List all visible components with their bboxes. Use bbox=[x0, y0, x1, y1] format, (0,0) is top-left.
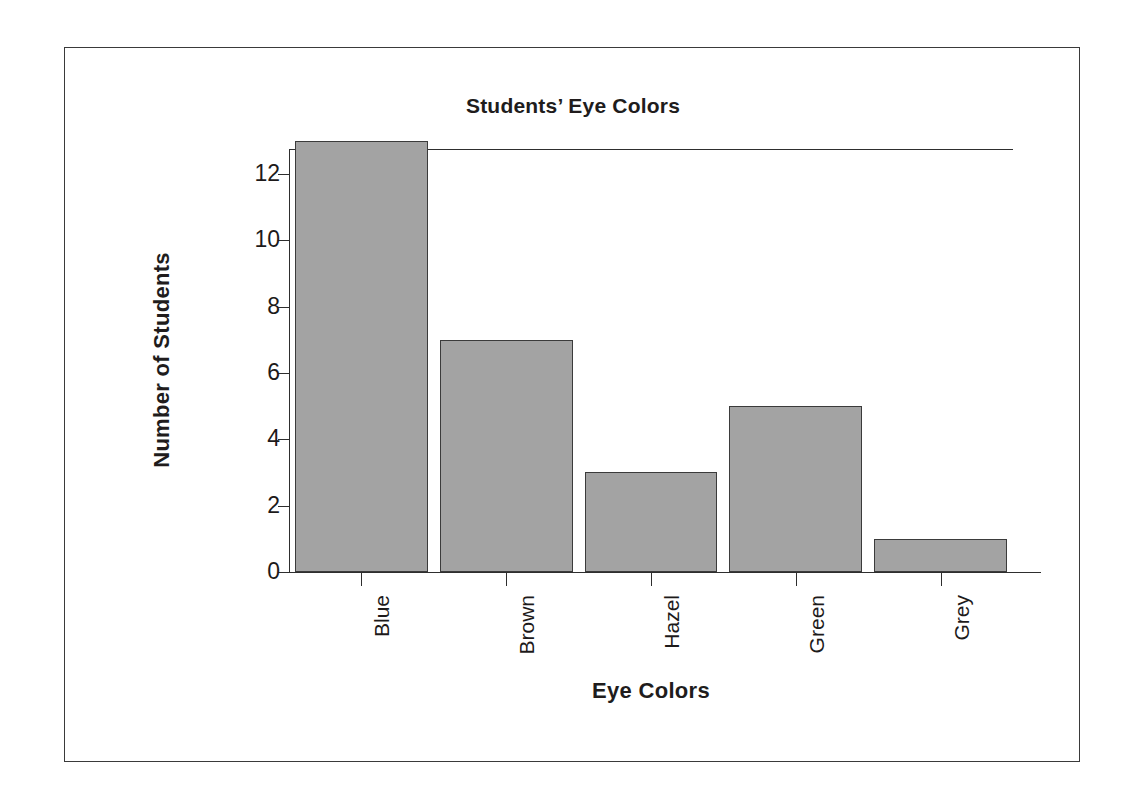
plot-area: 024681012 BlueBrownHazelGreenGrey bbox=[289, 149, 1013, 572]
x-tick-mark bbox=[361, 572, 362, 586]
y-axis-title: Number of Students bbox=[149, 252, 175, 468]
x-axis-title: Eye Colors bbox=[289, 678, 1013, 704]
x-tick-mark bbox=[796, 572, 797, 586]
x-tick-mark bbox=[651, 572, 652, 586]
y-tick-label: 12 bbox=[254, 160, 280, 186]
chart-title: Students’ Eye Colors bbox=[65, 94, 1081, 118]
y-tick-label: 8 bbox=[267, 293, 280, 319]
bar bbox=[729, 406, 862, 572]
bar-chart: Students’ Eye Colors 024681012 BlueBrown… bbox=[65, 48, 1081, 763]
bar bbox=[585, 472, 718, 572]
x-tick-label: Blue bbox=[371, 595, 392, 637]
x-tick-mark bbox=[506, 572, 507, 586]
x-tick-mark bbox=[941, 572, 942, 586]
bar bbox=[440, 340, 573, 572]
x-tick-label: Hazel bbox=[661, 595, 682, 649]
y-tick-label: 6 bbox=[267, 359, 280, 385]
bar bbox=[295, 141, 428, 572]
y-tick-label: 0 bbox=[267, 558, 280, 584]
bar bbox=[874, 539, 1007, 572]
y-axis-line bbox=[289, 149, 290, 572]
y-tick-label: 2 bbox=[267, 492, 280, 518]
y-tick-label: 10 bbox=[254, 226, 280, 252]
x-tick-label: Grey bbox=[951, 595, 972, 641]
x-tick-label: Brown bbox=[516, 595, 537, 655]
chart-page-frame: Students’ Eye Colors 024681012 BlueBrown… bbox=[64, 47, 1080, 762]
y-tick-label: 4 bbox=[267, 425, 280, 451]
x-tick-label: Green bbox=[806, 595, 827, 653]
x-axis-line bbox=[289, 572, 1041, 573]
